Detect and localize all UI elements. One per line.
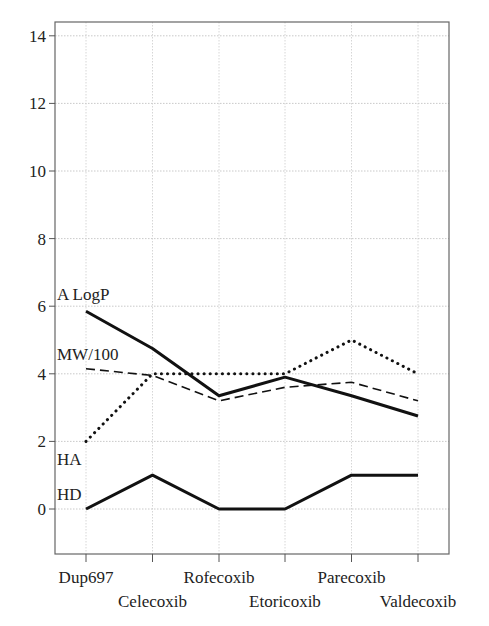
series-labels: A LogPMW/100HAHD	[57, 285, 118, 504]
series-label: A LogP	[57, 285, 109, 304]
y-axis: 02468101214	[29, 27, 55, 519]
y-tick-label: 8	[38, 230, 47, 249]
x-tick-label: Etoricoxib	[249, 592, 321, 611]
y-tick-label: 10	[29, 162, 46, 181]
line-chart: 02468101214 Dup697CelecoxibRofecoxibEtor…	[0, 0, 489, 626]
y-tick-label: 0	[38, 500, 47, 519]
x-tick-label: Rofecoxib	[184, 568, 255, 587]
series-a-logp	[86, 311, 418, 416]
x-tick-label: Celecoxib	[118, 592, 187, 611]
y-tick-label: 2	[38, 432, 47, 451]
x-axis: Dup697CelecoxibRofecoxibEtoricoxibPareco…	[59, 554, 457, 611]
y-tick-label: 6	[38, 297, 47, 316]
series-label: HA	[57, 450, 82, 469]
y-tick-label: 14	[29, 27, 47, 46]
data-series	[86, 311, 418, 509]
x-tick-label: Parecoxib	[318, 568, 386, 587]
series-label: MW/100	[57, 345, 118, 364]
series-ha	[86, 340, 418, 441]
x-tick-label: Valdecoxib	[380, 592, 456, 611]
y-tick-label: 4	[38, 365, 47, 384]
series-hd	[86, 475, 418, 509]
series-label: HD	[57, 485, 82, 504]
y-tick-label: 12	[29, 94, 46, 113]
x-tick-label: Dup697	[59, 568, 114, 587]
